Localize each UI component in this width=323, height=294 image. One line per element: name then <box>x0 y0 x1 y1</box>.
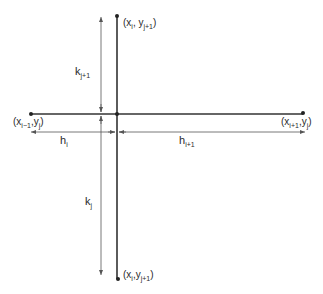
label-text: ) <box>308 116 311 127</box>
label-text: ) <box>150 269 153 280</box>
label-text: ) <box>153 17 156 28</box>
label-k-upper: kj+1 <box>75 66 90 79</box>
label-right-node: (xi+1,yj) <box>281 117 312 129</box>
dim-sub: i+1 <box>185 141 195 148</box>
label-sub: j+1 <box>141 275 151 282</box>
dim-sub: i <box>66 141 68 148</box>
label-sub: i+1 <box>289 122 299 129</box>
stencil-diagram <box>0 0 323 294</box>
node-top <box>115 14 119 18</box>
node-bottom <box>116 277 120 281</box>
label-left-node: (xi−1,yj) <box>13 117 44 129</box>
label-sub: i−1 <box>21 122 31 129</box>
label-bottom-node: (xi,yj+1) <box>123 270 154 282</box>
dim-sub: j+1 <box>81 72 91 79</box>
label-sub: j+1 <box>143 23 153 30</box>
label-top-node: (xi, yj+1) <box>123 18 156 30</box>
node-right <box>301 111 305 115</box>
node-center <box>115 112 119 116</box>
label-text: ,y <box>133 269 141 280</box>
label-text: ) <box>40 116 43 127</box>
label-h-right: hi+1 <box>179 135 195 148</box>
label-text: , y <box>133 17 144 28</box>
label-text: ,y <box>299 116 307 127</box>
label-k-lower: kj <box>85 196 92 209</box>
label-h-left: hi <box>60 135 68 148</box>
dim-sub: j <box>91 202 93 209</box>
label-text: ,y <box>31 116 39 127</box>
